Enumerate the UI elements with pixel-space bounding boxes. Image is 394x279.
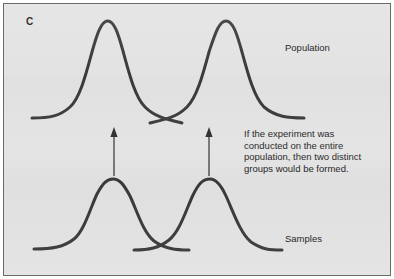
sample-distribution-right-curve: [134, 179, 282, 250]
population-distribution-right-curve: [150, 21, 304, 123]
panel-letter: C: [26, 16, 33, 27]
population-distribution-left-curve: [32, 21, 182, 123]
samples-row: [34, 179, 282, 250]
arrow-up-right-icon: [205, 127, 212, 176]
samples-series-label: Samples: [285, 233, 322, 244]
population-row: [32, 21, 304, 123]
figure-border-frame: C Population Samples If the experiment w…: [3, 3, 391, 276]
sample-distribution-left-curve: [34, 179, 189, 250]
arrow-up-left-icon: [110, 127, 117, 176]
figure-panel: C Population Samples If the experiment w…: [0, 0, 394, 279]
population-series-label: Population: [285, 42, 330, 53]
explanation-annotation: If the experiment was conducted on the e…: [244, 128, 391, 174]
